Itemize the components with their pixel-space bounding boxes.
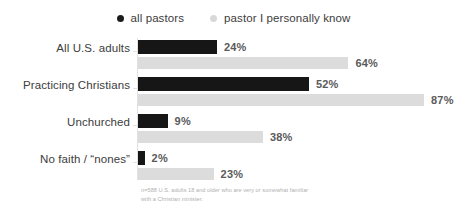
bar-row-all-pastors: 2% — [138, 151, 168, 165]
bar-value-label: 24% — [224, 41, 247, 53]
bar-row-all-pastors: 9% — [138, 114, 191, 128]
bar-value-label: 87% — [431, 94, 454, 106]
bar-known-pastor — [138, 131, 263, 143]
bar-value-label: 64% — [355, 57, 378, 69]
footnote-line-1: n=588 U.S. adults 18 and older who are v… — [141, 186, 441, 195]
bar-all-pastors — [138, 114, 168, 128]
bar-row-all-pastors: 52% — [138, 77, 339, 91]
bar-group: No faith / “nones” 2% 23% — [0, 151, 467, 187]
legend-item-all-pastors: all pastors — [117, 12, 185, 24]
category-label: No faith / “nones” — [4, 153, 130, 165]
dot-icon — [117, 15, 124, 22]
bar-row-known-pastor: 38% — [138, 131, 293, 143]
bar-chart-plot-area: All U.S. adults 24% 64% Practicing Chris… — [0, 36, 467, 184]
bar-row-known-pastor: 23% — [138, 168, 243, 180]
bar-row-known-pastor: 87% — [138, 94, 454, 106]
bar-group: Unchurched 9% 38% — [0, 114, 467, 150]
bar-all-pastors — [138, 40, 217, 54]
chart-footnote: n=588 U.S. adults 18 and older who are v… — [141, 186, 441, 204]
bar-known-pastor — [138, 168, 214, 180]
bar-known-pastor — [138, 94, 424, 106]
category-label: Unchurched — [4, 116, 130, 128]
footnote-line-2: with a Christian minister. — [141, 195, 441, 204]
bar-all-pastors — [138, 151, 145, 165]
bar-value-label: 38% — [270, 131, 293, 143]
legend-item-known-pastor: pastor I personally know — [210, 12, 350, 24]
bar-value-label: 52% — [316, 78, 339, 90]
dot-icon — [210, 15, 217, 22]
bar-row-known-pastor: 64% — [138, 57, 378, 69]
bar-group: All U.S. adults 24% 64% — [0, 40, 467, 76]
legend-label: pastor I personally know — [224, 12, 350, 24]
bar-value-label: 9% — [175, 115, 191, 127]
chart-legend: all pastors pastor I personally know — [0, 12, 467, 24]
category-label: All U.S. adults — [4, 42, 130, 54]
bar-known-pastor — [138, 57, 348, 69]
bar-row-all-pastors: 24% — [138, 40, 247, 54]
bar-all-pastors — [138, 77, 309, 91]
bar-group: Practicing Christians 52% 87% — [0, 77, 467, 113]
bar-value-label: 2% — [152, 152, 168, 164]
category-label: Practicing Christians — [4, 79, 130, 91]
bar-value-label: 23% — [221, 168, 244, 180]
legend-label: all pastors — [131, 12, 185, 24]
